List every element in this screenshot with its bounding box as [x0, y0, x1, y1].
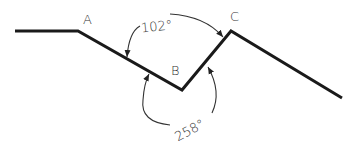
point-label-a: A: [83, 12, 92, 27]
angle-label-258: 258°: [172, 116, 207, 143]
angle-arc-258-right: [208, 67, 216, 113]
angle-label-102: 102°: [140, 17, 173, 35]
angle-diagram: A B C 102° 258°: [0, 0, 357, 143]
angle-arc-102-left: [127, 26, 140, 57]
point-label-b: B: [171, 63, 180, 78]
angle-arc-102-right: [170, 14, 223, 37]
point-label-c: C: [230, 9, 239, 24]
